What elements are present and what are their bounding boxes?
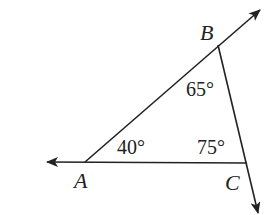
vertex-label-a: A	[72, 168, 88, 193]
vertex-label-b: B	[200, 20, 213, 45]
segment-ac-ray-left	[47, 162, 247, 163]
triangle-diagram: B A C 65° 40° 75°	[0, 0, 272, 215]
angle-label-a: 40°	[117, 136, 145, 158]
angle-label-c: 75°	[197, 136, 225, 158]
segment-ab-ray-upright	[85, 10, 260, 162]
angle-label-b: 65°	[186, 78, 214, 100]
vertex-label-c: C	[225, 170, 240, 195]
